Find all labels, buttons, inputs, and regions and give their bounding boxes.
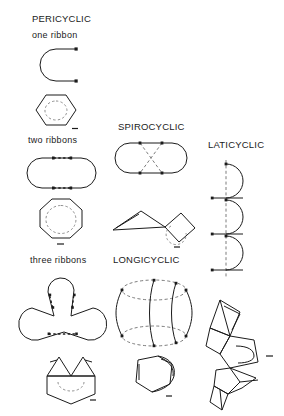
label-pericyclic: PERICYCLIC — [32, 14, 91, 24]
structure-spiro — [108, 202, 200, 250]
schematic-two-ribbons — [24, 156, 104, 190]
schematic-laticyclic — [202, 158, 278, 280]
structure-cyclooctatetraene — [36, 196, 98, 248]
schematic-longicyclic — [112, 276, 196, 350]
structure-laticyclic-cage — [196, 296, 282, 412]
structure-bicyclic — [126, 352, 188, 402]
label-laticyclic: LATICYCLIC — [208, 140, 264, 150]
label-spirocyclic: SPIROCYCLIC — [118, 122, 185, 132]
figure-canvas: PERICYCLIC one ribbon two ribbons SPIROC… — [0, 0, 284, 416]
schematic-three-ribbons — [18, 276, 110, 350]
label-three-ribbons: three ribbons — [30, 256, 86, 265]
schematic-spirocyclic — [110, 140, 194, 176]
structure-benzene — [32, 90, 94, 134]
schematic-one-ribbon — [30, 46, 110, 88]
structure-acenaphthylene — [30, 354, 100, 408]
label-two-ribbons: two ribbons — [28, 136, 77, 145]
label-one-ribbon: one ribbon — [32, 31, 78, 40]
label-longicyclic: LONGICYCLIC — [113, 255, 180, 265]
